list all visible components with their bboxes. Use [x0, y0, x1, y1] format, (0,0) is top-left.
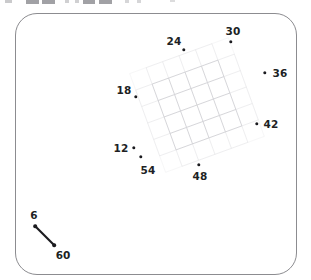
clipped-glyph-fragment: [83, 0, 95, 4]
datapoint-label: 36: [272, 67, 287, 79]
datapoint-label: 48: [192, 170, 207, 182]
datapoint-label: 12: [113, 142, 128, 154]
clipped-glyph-fragment: [26, 0, 39, 4]
datapoint-label: 24: [166, 35, 181, 47]
clipped-glyph-fragment: [170, 0, 175, 2]
scale-legend: 6 60: [22, 208, 80, 260]
datapoint-label: 30: [225, 25, 240, 37]
clipped-glyph-fragment: [125, 0, 129, 3]
datapoint-label: 18: [116, 84, 131, 96]
scale-legend-start-dot: [33, 224, 37, 228]
clipped-glyph-fragment: [65, 0, 69, 3]
clipped-glyph-fragment: [137, 0, 141, 3]
clipped-glyph-fragment: [75, 0, 79, 3]
scale-legend-end-dot: [52, 243, 56, 247]
clipped-glyph-fragment: [42, 0, 55, 4]
clipped-glyph-fragment: [99, 0, 112, 4]
scale-legend-start-label: 6: [30, 209, 37, 221]
datapoint-label: 54: [140, 164, 155, 176]
scale-legend-end-label: 60: [56, 249, 71, 261]
datapoint-label: 42: [263, 118, 278, 130]
top-edge-clipped-fragments: [0, 0, 311, 7]
clipped-glyph-fragment: [5, 0, 12, 3]
